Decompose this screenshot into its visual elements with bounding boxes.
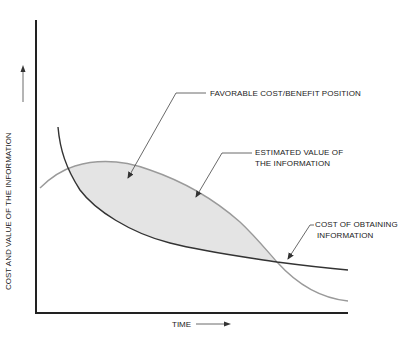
cost-annotation-line2: INFORMATION xyxy=(317,230,374,241)
cost-annotation-line1: COST OF OBTAINING xyxy=(315,219,398,230)
favorable-annotation: FAVORABLE COST/BENEFIT POSITION xyxy=(210,88,361,99)
x-axis-label: TIME xyxy=(172,320,191,329)
estimated-value-annotation-line2: THE INFORMATION xyxy=(255,158,330,169)
x-axis-arrow-icon xyxy=(224,322,231,327)
estimated-value-annotation-line1: ESTIMATED VALUE OF xyxy=(255,147,343,158)
favorable-region xyxy=(68,162,277,262)
y-axis-arrow-icon xyxy=(21,65,26,72)
estimated-value-leader xyxy=(196,153,252,197)
cost-leader xyxy=(288,225,314,259)
favorable-leader xyxy=(128,93,206,178)
cost-benefit-diagram: COST AND VALUE OF THE INFORMATION TIME F… xyxy=(0,0,412,344)
diagram-canvas xyxy=(0,0,412,344)
y-axis-label: COST AND VALUE OF THE INFORMATION xyxy=(4,132,13,290)
